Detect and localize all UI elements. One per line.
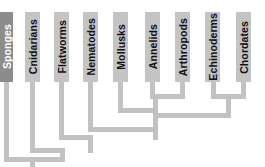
taxon-label-echinoderms: Echinoderms	[205, 12, 220, 82]
branch-protostome-deuterostome-join	[153, 113, 231, 118]
branch-flatworms	[59, 82, 64, 140]
branch-root	[30, 157, 35, 167]
taxon-label-cnidarians: Cnidarians	[25, 12, 40, 82]
taxon-label-nematodes: Nematodes	[83, 12, 98, 82]
taxon-label-mollusks: Mollusks	[113, 12, 128, 82]
branch-node-2	[88, 135, 93, 153]
taxon-label-flatworms: Flatworms	[54, 12, 69, 82]
taxon-label-text: Sponges	[1, 24, 13, 69]
taxon-label-text: Cnidarians	[27, 19, 39, 74]
branch-cnidarians	[30, 82, 35, 153]
taxon-label-text: Nematodes	[85, 18, 97, 76]
cladogram: Sponges Cnidarians Flatworms Nematodes M…	[0, 0, 265, 167]
branch-nematodes-join	[88, 127, 158, 132]
taxon-label-annelids: Annelids	[145, 12, 160, 82]
branch-nematodes	[88, 82, 93, 132]
taxon-label-text: Mollusks	[115, 24, 127, 70]
taxon-label-text: Flatworms	[56, 20, 68, 73]
taxon-label-text: Arthropods	[177, 18, 189, 76]
taxon-label-chordates: Chordates	[236, 12, 251, 82]
branch-node-1	[60, 148, 65, 162]
branch-sponges	[4, 82, 9, 162]
taxon-label-sponges: Sponges	[0, 12, 13, 82]
branch-mollusks-join	[118, 108, 158, 113]
taxon-label-arthropods: Arthropods	[175, 12, 190, 82]
taxon-label-text: Chordates	[238, 21, 250, 74]
taxon-label-text: Annelids	[147, 24, 159, 69]
taxon-label-text: Echinoderms	[207, 13, 219, 81]
